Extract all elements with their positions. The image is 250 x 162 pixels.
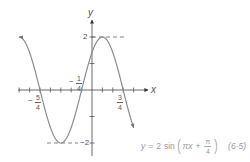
eq-tag: (6-5) — [228, 141, 246, 151]
frac-den: 4 — [36, 104, 40, 111]
x-tick-sign-neg5over4: − — [28, 96, 33, 105]
frac-num: 5 — [36, 94, 40, 101]
frac-num: 1 — [77, 75, 81, 82]
frac-bar — [76, 83, 82, 84]
eq-right-paren: ) — [215, 136, 218, 156]
x-tick-label-neg5over4: 5 4 — [35, 94, 41, 111]
y-tick-label-neg2: −2 — [80, 139, 89, 147]
equation-caption: y = 2 sin ( πx + π 4 ) (6-5) — [141, 136, 246, 156]
frac-bar — [35, 102, 41, 103]
frac-bar — [117, 102, 123, 103]
eq-frac-bar — [204, 146, 211, 147]
x-tick-label-neg1over4: 1 4 — [76, 75, 82, 92]
eq-left-paren: ( — [177, 136, 180, 156]
eq-plus: + — [195, 141, 200, 151]
eq-frac-den: 4 — [206, 148, 210, 155]
eq-equals: = — [148, 141, 153, 151]
frac-den: 4 — [118, 104, 122, 111]
eq-fraction: π 4 — [204, 138, 211, 155]
eq-coef: 2 — [156, 141, 161, 151]
frac-num: 3 — [118, 94, 122, 101]
eq-arg-term: πx — [183, 141, 193, 151]
x-axis-label: x — [151, 85, 156, 95]
y-tick-label-2: 2 — [83, 33, 87, 41]
x-tick-label-3over4: 3 4 — [117, 94, 123, 111]
eq-func: sin — [164, 141, 175, 151]
eq-frac-num: π — [206, 138, 211, 145]
eq-lhs: y — [141, 141, 145, 151]
y-axis-label: y — [88, 8, 93, 18]
frac-den: 4 — [77, 85, 81, 92]
x-tick-sign-neg1over4: − — [69, 77, 74, 86]
